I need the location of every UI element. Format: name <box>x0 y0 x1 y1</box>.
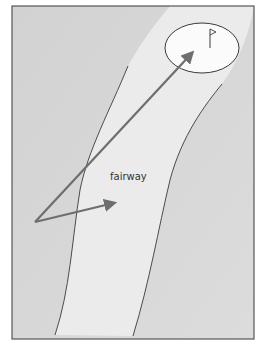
fairway-label: fairway <box>110 171 147 182</box>
green <box>165 23 239 73</box>
golf-hole-diagram: fairway <box>0 0 261 344</box>
